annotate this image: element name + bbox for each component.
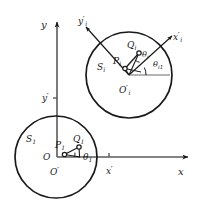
point-label-Pi: Pi	[113, 57, 121, 66]
point-label-O: O	[43, 153, 50, 162]
point-Qi-marker	[137, 51, 141, 55]
segment-Pi-Qi	[125, 53, 139, 69]
axis-label-y: y	[41, 20, 47, 30]
geometry-diagram: y x y′ x′ y′i x′i S1 Si O O′ O′i P1 Q1 P…	[0, 0, 197, 210]
axis-label-x-prime-i: x′i	[173, 33, 182, 42]
point-label-Q1: Q1	[73, 135, 84, 144]
diagram-canvas	[0, 0, 197, 210]
point-P1-marker	[62, 152, 66, 156]
circle-label-S1: S1	[26, 135, 36, 144]
axis-label-x: x	[178, 167, 184, 177]
point-label-P1: P1	[55, 141, 65, 150]
point-label-Qi: Qi	[127, 41, 136, 50]
axis-label-x-prime: x′	[106, 167, 113, 176]
point-Pi-marker	[123, 66, 127, 70]
point-Q1-marker	[77, 145, 81, 149]
point-label-O-prime: O′	[50, 168, 59, 177]
axis-label-y-prime: y′	[42, 94, 49, 103]
point-label-O-prime-i: O′i	[119, 86, 130, 95]
angle-label-theta-i1: θi1	[153, 61, 163, 69]
angle-label-theta-1: θ1	[83, 153, 92, 162]
angle-arc-theta-i1	[144, 68, 146, 76]
angle-label-theta-i: θi	[142, 51, 149, 59]
axis-label-y-prime-i: y′i	[78, 17, 87, 26]
angle-arc-theta-i	[136, 61, 140, 63]
circle-label-Si: Si	[97, 63, 105, 72]
